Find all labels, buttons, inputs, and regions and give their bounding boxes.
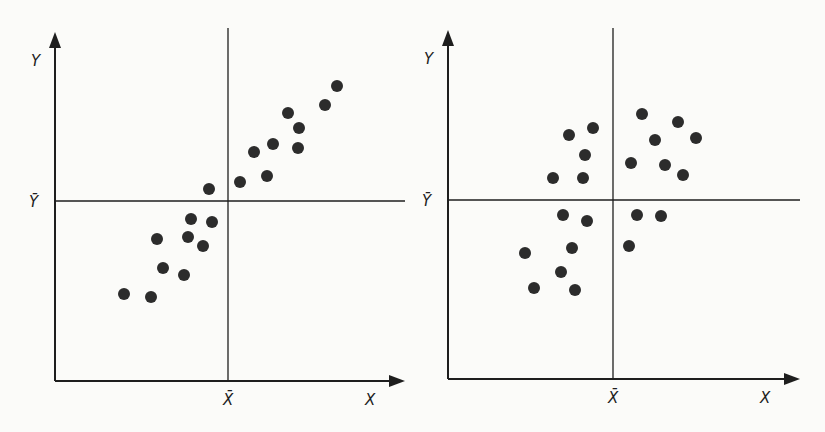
data-point — [248, 146, 260, 158]
data-point — [157, 262, 169, 274]
data-point — [178, 269, 190, 281]
data-point — [636, 108, 648, 120]
data-point — [547, 172, 559, 184]
data-point — [182, 231, 194, 243]
data-point — [261, 170, 273, 182]
data-point — [118, 288, 130, 300]
data-point — [331, 80, 343, 92]
data-point — [581, 215, 593, 227]
data-point — [145, 291, 157, 303]
right-scatter-panel: YȲX̄X — [422, 28, 800, 407]
x-mean-label: X̄ — [607, 388, 619, 407]
data-point — [587, 122, 599, 134]
data-point — [282, 107, 294, 119]
data-point — [672, 116, 684, 128]
data-point — [519, 247, 531, 259]
data-point — [677, 169, 689, 181]
data-point — [649, 134, 661, 146]
data-point — [579, 149, 591, 161]
y-mean-label: Ȳ — [29, 193, 40, 211]
y-axis-arrow-icon — [49, 32, 61, 48]
data-point — [203, 183, 215, 195]
x-mean-label: X̄ — [222, 390, 234, 409]
data-point — [566, 242, 578, 254]
data-point — [528, 282, 540, 294]
data-point — [690, 132, 702, 144]
data-point — [655, 210, 667, 222]
x-axis-label: X — [759, 389, 771, 407]
y-mean-label: Ȳ — [422, 192, 433, 210]
data-point — [555, 266, 567, 278]
data-point — [557, 209, 569, 221]
data-point — [625, 157, 637, 169]
data-point — [563, 129, 575, 141]
data-point — [234, 176, 246, 188]
data-point — [631, 209, 643, 221]
scatter-canvas: YȲX̄X YȲX̄X — [0, 0, 825, 432]
data-point — [569, 284, 581, 296]
x-axis-arrow-icon — [784, 373, 800, 385]
y-axis-label: Y — [424, 50, 435, 68]
data-point — [292, 142, 304, 154]
scatter-figure: YȲX̄X YȲX̄X — [0, 0, 825, 432]
data-point — [319, 99, 331, 111]
x-axis-arrow-icon — [389, 375, 405, 387]
x-axis-label: X — [364, 391, 376, 409]
data-point — [267, 138, 279, 150]
data-point — [185, 213, 197, 225]
data-point — [623, 240, 635, 252]
data-point — [293, 122, 305, 134]
data-point — [659, 159, 671, 171]
data-point — [577, 172, 589, 184]
data-point — [197, 240, 209, 252]
y-axis-arrow-icon — [442, 30, 454, 46]
data-point — [206, 216, 218, 228]
left-scatter-panel: YȲX̄X — [29, 28, 405, 409]
y-axis-label: Y — [31, 52, 42, 70]
data-point — [151, 233, 163, 245]
